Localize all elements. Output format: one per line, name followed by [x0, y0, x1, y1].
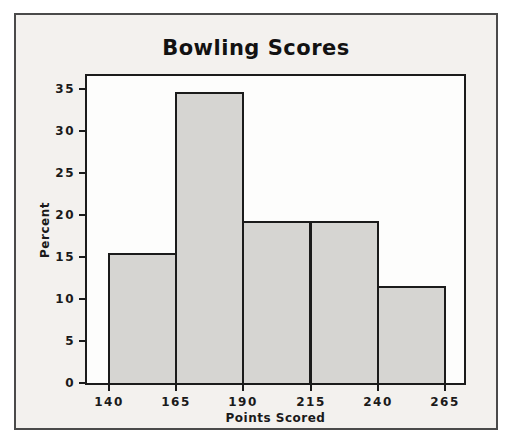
y-tick-label: 25 [41, 165, 75, 181]
y-tick-mark [79, 172, 85, 174]
histogram-bar [377, 286, 446, 385]
x-tick-label: 265 [420, 395, 470, 409]
y-tick-label: 5 [41, 333, 75, 349]
x-tick-mark [310, 385, 312, 391]
chart-title: Bowling Scores [16, 36, 496, 60]
histogram-bar [242, 221, 311, 385]
x-axis-title: Points Scored [87, 411, 464, 425]
y-tick-mark [79, 214, 85, 216]
y-tick-mark [79, 88, 85, 90]
x-tick-mark [108, 385, 110, 391]
histogram-bar [310, 221, 379, 385]
histogram-bar [175, 92, 244, 385]
histogram-bar [108, 253, 177, 385]
y-tick-mark [79, 256, 85, 258]
x-tick-mark [175, 385, 177, 391]
y-tick-mark [79, 130, 85, 132]
plot-area: 05101520253035 140165190215240265 Percen… [85, 74, 466, 385]
y-axis-title: Percent [38, 180, 52, 280]
y-tick-mark [79, 340, 85, 342]
x-tick-label: 165 [151, 395, 201, 409]
figure-frame: Bowling Scores 05101520253035 1401651902… [14, 13, 498, 430]
y-tick-mark [79, 298, 85, 300]
y-tick-label: 35 [41, 81, 75, 97]
x-tick-label: 140 [84, 395, 134, 409]
x-tick-mark [242, 385, 244, 391]
y-tick-label: 30 [41, 123, 75, 139]
x-tick-mark [444, 385, 446, 391]
y-tick-label: 10 [41, 291, 75, 307]
x-tick-mark [377, 385, 379, 391]
x-tick-label: 190 [218, 395, 268, 409]
x-tick-label: 240 [353, 395, 403, 409]
y-tick-label: 0 [41, 375, 75, 391]
x-tick-label: 215 [286, 395, 336, 409]
y-tick-mark [79, 382, 85, 384]
